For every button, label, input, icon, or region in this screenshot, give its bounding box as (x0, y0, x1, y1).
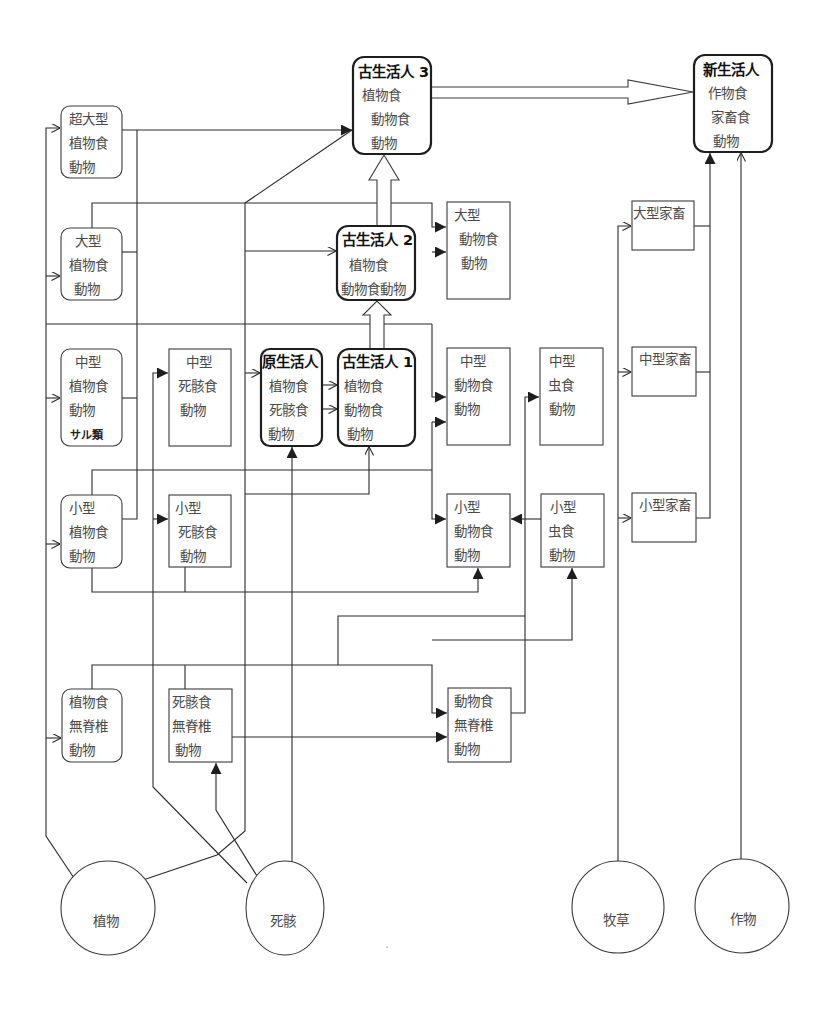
svg-text:新生活人: 新生活人 (703, 61, 760, 78)
node-super-large-herbivore[interactable]: 超大型 植物食 動物 (61, 106, 122, 178)
svg-text:植物食: 植物食 (69, 378, 109, 394)
edge-livestock-to-neo-human (696, 153, 710, 518)
block-arrow-paleo1-to-paleo2 (363, 301, 391, 349)
svg-text:無脊椎: 無脊椎 (69, 718, 108, 734)
svg-text:動物: 動物 (371, 135, 397, 151)
svg-text:動物: 動物 (454, 741, 480, 757)
node-neo-human[interactable]: 新生活人 作物食 家畜食 動物 (694, 55, 772, 152)
svg-text:サル類: サル類 (70, 428, 104, 442)
node-carcass[interactable]: 死骸 (246, 861, 324, 955)
edge-carcass-to-medium-scav (153, 373, 247, 883)
edge-to-small-carn (432, 422, 446, 519)
svg-text:死骸食: 死骸食 (178, 378, 218, 394)
svg-text:植物食: 植物食 (69, 694, 109, 710)
svg-text:大型: 大型 (454, 207, 480, 223)
edge-large-herb-to-large-carn (92, 203, 446, 228)
svg-text:動物食: 動物食 (454, 377, 494, 393)
svg-text:小型家畜: 小型家畜 (639, 497, 691, 513)
node-plants[interactable]: 植物 (61, 861, 155, 955)
scan-speck (386, 946, 388, 948)
node-medium-herbivore[interactable]: 中型 植物食 動物 サル類 (61, 349, 122, 446)
svg-text:牧草: 牧草 (603, 912, 629, 928)
edge-carcass-to-scav-invert (216, 763, 262, 884)
svg-text:植物食: 植物食 (362, 87, 402, 103)
svg-text:大型家畜: 大型家畜 (633, 205, 685, 221)
edge-to-paleo3-diagonal (245, 130, 352, 203)
svg-text:虫食: 虫食 (548, 523, 575, 539)
svg-text:死骸: 死骸 (270, 913, 297, 929)
svg-text:動物: 動物 (74, 281, 100, 297)
node-scavenger-invertebrate[interactable]: 死骸食 無脊椎 動物 (169, 689, 232, 762)
svg-text:動物: 動物 (180, 402, 206, 418)
node-paleo-human-1[interactable]: 古生活人 1 植物食 動物食 動物 (338, 349, 415, 446)
svg-text:動物: 動物 (713, 133, 739, 149)
edge-to-small-insectivore (432, 568, 572, 640)
svg-text:中型: 中型 (75, 354, 101, 370)
edge-pasture-to-large-livestock (618, 226, 631, 883)
svg-text:古生活人 3: 古生活人 3 (358, 63, 429, 80)
node-small-scavenger[interactable]: 小型 死骸食 動物 (169, 495, 231, 567)
node-small-insectivore[interactable]: 小型 虫食 動物 (541, 494, 604, 567)
svg-text:虫食: 虫食 (548, 377, 575, 393)
node-large-herbivore[interactable]: 大型 植物食 動物 (61, 228, 122, 300)
svg-text:家畜食: 家畜食 (711, 109, 751, 125)
svg-text:植物食: 植物食 (69, 135, 109, 151)
node-crops[interactable]: 作物 (695, 859, 789, 953)
svg-text:植物食: 植物食 (69, 257, 109, 273)
node-pasture[interactable]: 牧草 (572, 861, 664, 953)
node-small-livestock[interactable]: 小型家畜 (632, 493, 696, 542)
svg-text:中型家畜: 中型家畜 (639, 351, 691, 367)
svg-text:中型: 中型 (186, 354, 212, 370)
node-large-carnivore[interactable]: 大型 動物食 動物 (447, 202, 510, 299)
node-herbivore-invertebrate[interactable]: 植物食 無脊椎 動物 (62, 689, 122, 762)
svg-text:古生活人 1: 古生活人 1 (342, 353, 413, 370)
svg-text:動物: 動物 (454, 547, 480, 563)
svg-text:小型: 小型 (454, 499, 480, 515)
node-medium-scavenger[interactable]: 中型 死骸食 動物 (169, 349, 231, 446)
node-carnivore-invertebrate[interactable]: 動物食 無脊椎 動物 (448, 688, 511, 762)
svg-text:動物食: 動物食 (454, 693, 494, 709)
svg-text:古生活人 2: 古生活人 2 (342, 231, 413, 248)
edge-to-small-carn-bottom (92, 568, 478, 592)
node-paleo-human-3[interactable]: 古生活人 3 植物食 動物食 動物 (353, 57, 431, 154)
svg-text:超大型: 超大型 (69, 111, 108, 127)
svg-text:動物: 動物 (347, 426, 373, 442)
svg-text:動物食: 動物食 (344, 402, 384, 418)
svg-text:動物: 動物 (69, 548, 95, 564)
svg-text:動物: 動物 (180, 548, 206, 564)
node-small-carnivore[interactable]: 小型 動物食 動物 (447, 494, 510, 567)
svg-text:小型: 小型 (175, 500, 201, 516)
svg-text:原生活人: 原生活人 (262, 353, 319, 370)
svg-text:動物: 動物 (461, 255, 487, 271)
svg-text:大型: 大型 (75, 233, 101, 249)
node-small-herbivore[interactable]: 小型 植物食 動物 (61, 495, 122, 568)
svg-text:小型: 小型 (550, 499, 576, 515)
node-medium-livestock[interactable]: 中型家畜 (632, 347, 696, 396)
block-arrow-paleo2-to-paleo3 (369, 155, 399, 226)
node-medium-insectivore[interactable]: 中型 虫食 動物 (540, 348, 603, 445)
svg-text:作物食: 作物食 (708, 85, 748, 101)
svg-text:動物食: 動物食 (371, 111, 411, 127)
edge-to-carn-invert (92, 665, 447, 713)
svg-text:死骸食: 死骸食 (269, 402, 309, 418)
edge-small-herb-top (92, 470, 432, 495)
svg-text:植物: 植物 (93, 913, 119, 929)
svg-text:動物食: 動物食 (459, 231, 499, 247)
svg-text:植物食: 植物食 (69, 524, 109, 540)
svg-text:小型: 小型 (69, 500, 95, 516)
node-paleo-human-2[interactable]: 古生活人 2 植物食 動物食動物 (337, 226, 415, 300)
svg-text:動物: 動物 (549, 547, 575, 563)
svg-text:死骸食: 死骸食 (178, 524, 218, 540)
svg-text:動物: 動物 (69, 159, 95, 175)
svg-text:作物: 作物 (730, 911, 756, 927)
node-large-livestock[interactable]: 大型家畜 (632, 201, 694, 250)
svg-text:無脊椎: 無脊椎 (172, 718, 211, 734)
svg-text:動物: 動物 (268, 426, 294, 442)
svg-text:動物食動物: 動物食動物 (341, 281, 406, 297)
svg-text:動物: 動物 (549, 401, 575, 417)
food-web-diagram: 超大型 植物食 動物 大型 植物食 動物 中型 植物食 動物 サル類 小型 植物… (0, 0, 830, 1013)
svg-text:中型: 中型 (460, 353, 486, 369)
node-medium-carnivore[interactable]: 中型 動物食 動物 (447, 348, 510, 445)
edge-to-medium-insectivore (511, 397, 539, 713)
node-proto-human[interactable]: 原生活人 植物食 死骸食 動物 (261, 349, 322, 446)
